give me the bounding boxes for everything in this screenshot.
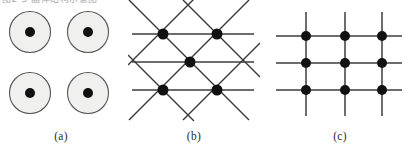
figure-root: 图2-3 晶体结构示意图 (a) — [0, 0, 412, 154]
lattice-node — [185, 57, 196, 68]
lattice-node — [340, 31, 350, 41]
lattice-node — [340, 58, 350, 68]
panel-c: (c) — [268, 0, 412, 154]
atom-center-dot — [83, 88, 93, 98]
atom-center-dot — [25, 27, 35, 37]
lattice-node — [212, 29, 223, 40]
lattice-node — [158, 29, 169, 40]
panel-b-caption: (b) — [128, 130, 260, 142]
lattice-node — [301, 85, 311, 95]
lattice-node — [377, 58, 387, 68]
lattice-node — [301, 58, 311, 68]
atom-center-dot — [83, 27, 93, 37]
circle-group-a — [10, 12, 109, 114]
lattice-node — [377, 85, 387, 95]
panel-b: (b) — [128, 0, 260, 154]
lattice-node — [301, 31, 311, 41]
lattice-node — [377, 31, 387, 41]
lattice-node — [212, 85, 223, 96]
panel-b-diagram — [128, 0, 260, 126]
panel-c-caption: (c) — [268, 130, 412, 142]
panel-a-diagram — [0, 0, 122, 126]
lattice-node — [340, 85, 350, 95]
panel-a-caption: (a) — [0, 130, 122, 142]
panel-c-diagram — [268, 0, 412, 126]
atom-center-dot — [25, 88, 35, 98]
panel-a: (a) — [0, 0, 122, 154]
lattice-node — [158, 85, 169, 96]
